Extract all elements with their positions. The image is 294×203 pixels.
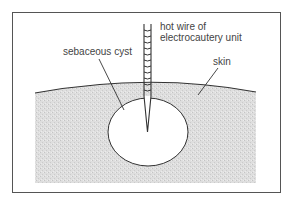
hot-wire-label-line1: hot wire of [160, 21, 242, 32]
diagram-canvas [0, 0, 294, 203]
sebaceous-cyst-label: sebaceous cyst [63, 46, 132, 57]
skin-label: skin [213, 56, 231, 67]
electrocautery-diagram: hot wire of electrocautery unit sebaceou… [0, 0, 294, 203]
hot-wire-label: hot wire of electrocautery unit [160, 21, 242, 43]
hot-wire-label-line2: electrocautery unit [160, 32, 242, 43]
